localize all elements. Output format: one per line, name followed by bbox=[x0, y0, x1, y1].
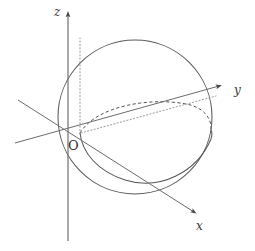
equator-front-arc bbox=[80, 130, 212, 183]
z-axis-label: z bbox=[54, 6, 60, 18]
y-axis-line bbox=[15, 86, 219, 143]
origin-label: O bbox=[68, 139, 79, 152]
coordinate-sphere-diagram bbox=[0, 0, 255, 251]
x-axis-line bbox=[18, 100, 194, 212]
x-axis-label: x bbox=[196, 220, 203, 232]
y-axis-label: y bbox=[234, 84, 241, 96]
figure-canvas: z y x O bbox=[0, 0, 255, 251]
sphere-outline bbox=[58, 40, 212, 194]
